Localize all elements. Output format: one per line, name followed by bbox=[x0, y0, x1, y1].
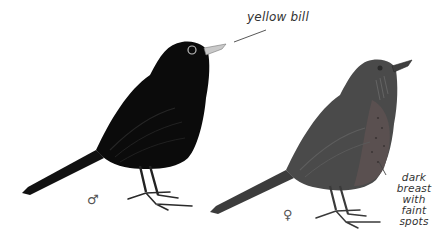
bill-leader-line bbox=[234, 30, 266, 42]
male-blackbird bbox=[22, 42, 226, 210]
birds-drawing bbox=[0, 0, 439, 239]
breast-annotation-line3: with faint bbox=[389, 194, 439, 216]
breast-annotation: dark breast with faint spots bbox=[389, 172, 439, 227]
male-symbol-icon: ♂ bbox=[87, 193, 99, 206]
breast-annotation-line4: spots bbox=[389, 216, 439, 227]
blackbird-illustration: yellow bill dark breast with faint spots… bbox=[0, 0, 439, 239]
bill-annotation: yellow bill bbox=[247, 12, 309, 23]
female-symbol-icon: ♀ bbox=[283, 208, 293, 221]
female-blackbird bbox=[210, 60, 412, 228]
